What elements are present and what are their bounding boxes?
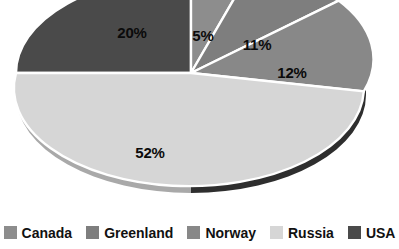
legend-item-greenland[interactable]: Greenland	[86, 226, 173, 240]
legend-swatch-norway	[187, 226, 200, 239]
pie-chart-svg	[0, 0, 399, 212]
legend-swatch-russia	[270, 226, 283, 239]
pie-slice-russia	[14, 73, 364, 186]
legend-label-norway: Norway	[205, 226, 256, 240]
legend-label-canada: Canada	[22, 226, 73, 240]
legend-label-russia: Russia	[288, 226, 334, 240]
legend-item-russia[interactable]: Russia	[270, 226, 334, 240]
legend-swatch-greenland	[86, 226, 99, 239]
legend-swatch-canada	[4, 226, 17, 239]
pie-slice-usa	[16, 0, 191, 73]
chart-legend: Canada Greenland Norway Russia USA	[0, 216, 399, 249]
legend-label-greenland: Greenland	[104, 226, 173, 240]
legend-label-usa: USA	[366, 226, 396, 240]
chart-plot-area: 5% 11% 12% 52% 20%	[0, 0, 399, 212]
legend-item-canada[interactable]: Canada	[4, 226, 73, 240]
legend-swatch-usa	[348, 226, 361, 239]
pie-chart-figure: 5% 11% 12% 52% 20% Canada Greenland Norw…	[0, 0, 399, 249]
legend-item-norway[interactable]: Norway	[187, 226, 256, 240]
legend-item-usa[interactable]: USA	[348, 226, 396, 240]
